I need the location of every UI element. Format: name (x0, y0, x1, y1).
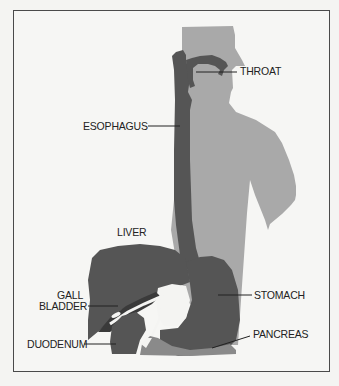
label-pancreas: PANCREAS (253, 329, 308, 340)
label-esophagus: ESOPHAGUS (83, 121, 148, 132)
label-bladder: BLADDER (39, 301, 87, 312)
label-throat: THROAT (240, 66, 281, 77)
label-duodenum: DUODENUM (27, 339, 87, 350)
label-stomach: STOMACH (254, 290, 305, 301)
label-liver: LIVER (117, 227, 146, 238)
